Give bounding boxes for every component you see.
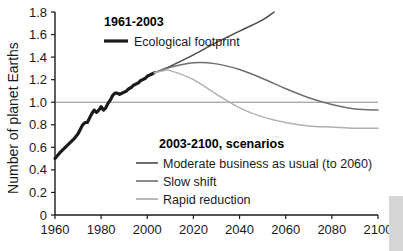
y-tick-label: 0.2 — [29, 185, 47, 200]
y-tick-label: 0.6 — [29, 140, 47, 155]
y-tick-label: 0.8 — [29, 117, 47, 132]
y-tick-label: 1.4 — [29, 50, 47, 65]
y-tick-label: 1.8 — [29, 5, 47, 20]
x-tick-label: 2020 — [179, 222, 208, 237]
legend-label-moderate-business-as-usual: Moderate business as usual (to 2060) — [163, 157, 372, 171]
x-tick-label: 2000 — [133, 222, 162, 237]
x-tick-label: 1960 — [41, 222, 70, 237]
chart-figure: Number of planet Earths 00.20.40.60.81.0… — [0, 0, 403, 251]
x-tick-label: 2080 — [317, 222, 346, 237]
y-axis-title: Number of planet Earths — [5, 42, 21, 194]
x-tick-label: 2040 — [225, 222, 254, 237]
ecological-footprint-line-chart: Number of planet Earths 00.20.40.60.81.0… — [0, 0, 403, 251]
y-tick-label: 1.6 — [29, 27, 47, 42]
y-tick-label: 0 — [40, 208, 47, 223]
right-edge-strip — [389, 196, 403, 251]
y-tick-label: 1.2 — [29, 72, 47, 87]
y-tick-label: 0.4 — [29, 162, 47, 177]
legend-historical-heading: 1961-2003 — [104, 15, 164, 29]
legend-label-slow-shift: Slow shift — [163, 175, 217, 189]
legend-scenarios-heading: 2003-2100, scenarios — [159, 137, 284, 151]
x-tick-label: 1980 — [87, 222, 116, 237]
y-tick-label: 1.0 — [29, 95, 47, 110]
x-tick-label: 2060 — [271, 222, 300, 237]
legend-label-ecological-footprint: Ecological footprint — [134, 35, 240, 49]
legend-label-rapid-reduction: Rapid reduction — [163, 193, 251, 207]
